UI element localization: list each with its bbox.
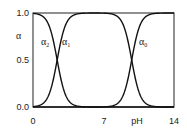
- y-tick-1: 1.0: [16, 8, 29, 18]
- y-tick-0: 0.0: [16, 102, 29, 112]
- x-tick-14: 14: [169, 116, 179, 126]
- x-tick-0: 0: [30, 116, 35, 126]
- alpha0-label: α0: [139, 36, 147, 48]
- y-axis-label: α: [16, 30, 22, 41]
- alpha2-label: α2: [41, 36, 49, 48]
- alpha-distribution-chart: 1.0 0.5 0.0 α 0 7 14 pH α2 α1 α0: [0, 0, 187, 138]
- curves: [33, 13, 174, 107]
- alpha2-curve: [33, 13, 174, 107]
- alpha1-curve: [33, 13, 174, 107]
- y-tick-0.5: 0.5: [16, 55, 29, 65]
- x-tick-7: 7: [101, 116, 106, 126]
- plot-frame: [33, 13, 174, 107]
- x-axis-label: pH: [131, 116, 143, 126]
- alpha0-curve: [33, 13, 174, 107]
- alpha1-label: α1: [62, 36, 70, 48]
